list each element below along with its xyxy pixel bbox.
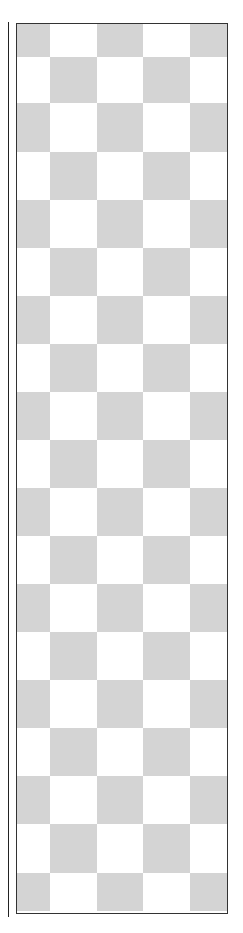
- board-row: [17, 488, 227, 536]
- light-square: [17, 248, 50, 296]
- dark-square: [190, 873, 227, 911]
- board-row: [17, 440, 227, 488]
- board-row: [17, 873, 227, 911]
- dark-square: [97, 392, 143, 440]
- light-square: [97, 152, 143, 200]
- light-square: [190, 440, 227, 488]
- dark-square: [97, 24, 143, 57]
- board-row: [17, 728, 227, 776]
- dark-square: [17, 873, 50, 911]
- dark-square: [50, 728, 97, 776]
- dark-square: [50, 57, 97, 103]
- board-row: [17, 24, 227, 57]
- board-row: [17, 152, 227, 200]
- light-square: [97, 248, 143, 296]
- board-row: [17, 824, 227, 873]
- light-square: [97, 536, 143, 584]
- dark-square: [17, 584, 50, 632]
- dark-square: [97, 488, 143, 536]
- light-square: [97, 57, 143, 103]
- dark-square: [97, 584, 143, 632]
- dark-square: [143, 536, 190, 584]
- light-square: [50, 200, 97, 248]
- light-square: [190, 824, 227, 873]
- board-row: [17, 57, 227, 103]
- light-square: [50, 296, 97, 344]
- dark-square: [50, 152, 97, 200]
- dark-square: [190, 680, 227, 728]
- light-square: [143, 103, 190, 152]
- light-square: [143, 584, 190, 632]
- light-square: [190, 248, 227, 296]
- dark-square: [190, 488, 227, 536]
- light-square: [143, 488, 190, 536]
- light-square: [97, 728, 143, 776]
- dark-square: [190, 103, 227, 152]
- light-square: [143, 873, 190, 911]
- left-margin-line: [8, 22, 9, 917]
- light-square: [190, 57, 227, 103]
- dark-square: [190, 392, 227, 440]
- dark-square: [143, 344, 190, 392]
- light-square: [17, 728, 50, 776]
- light-square: [17, 440, 50, 488]
- board-row: [17, 344, 227, 392]
- dark-square: [50, 632, 97, 680]
- dark-square: [50, 824, 97, 873]
- light-square: [97, 632, 143, 680]
- light-square: [17, 344, 50, 392]
- light-square: [97, 344, 143, 392]
- dark-square: [17, 776, 50, 824]
- board-row: [17, 248, 227, 296]
- dark-square: [17, 24, 50, 57]
- dark-square: [17, 103, 50, 152]
- light-square: [50, 392, 97, 440]
- dark-square: [190, 296, 227, 344]
- light-square: [190, 152, 227, 200]
- dark-square: [17, 296, 50, 344]
- light-square: [143, 680, 190, 728]
- dark-square: [97, 776, 143, 824]
- board-row: [17, 296, 227, 344]
- dark-square: [143, 248, 190, 296]
- board-row: [17, 632, 227, 680]
- light-square: [97, 824, 143, 873]
- light-square: [50, 873, 97, 911]
- light-square: [50, 680, 97, 728]
- light-square: [17, 824, 50, 873]
- dark-square: [143, 57, 190, 103]
- dark-square: [143, 632, 190, 680]
- light-square: [50, 776, 97, 824]
- dark-square: [190, 776, 227, 824]
- dark-square: [143, 440, 190, 488]
- dark-square: [17, 392, 50, 440]
- dark-square: [190, 584, 227, 632]
- dark-square: [190, 200, 227, 248]
- dark-square: [97, 680, 143, 728]
- dark-square: [17, 488, 50, 536]
- dark-square: [97, 873, 143, 911]
- dark-square: [17, 200, 50, 248]
- board-row: [17, 776, 227, 824]
- light-square: [190, 632, 227, 680]
- light-square: [17, 152, 50, 200]
- dark-square: [97, 200, 143, 248]
- light-square: [50, 488, 97, 536]
- light-square: [143, 296, 190, 344]
- light-square: [17, 536, 50, 584]
- board-row: [17, 392, 227, 440]
- dark-square: [190, 24, 227, 57]
- dark-square: [143, 728, 190, 776]
- dark-square: [97, 103, 143, 152]
- board-row: [17, 584, 227, 632]
- board-row: [17, 103, 227, 152]
- light-square: [143, 200, 190, 248]
- light-square: [143, 392, 190, 440]
- light-square: [190, 344, 227, 392]
- light-square: [17, 632, 50, 680]
- dark-square: [50, 248, 97, 296]
- dark-square: [50, 536, 97, 584]
- board-row: [17, 680, 227, 728]
- board-row: [17, 200, 227, 248]
- dark-square: [143, 824, 190, 873]
